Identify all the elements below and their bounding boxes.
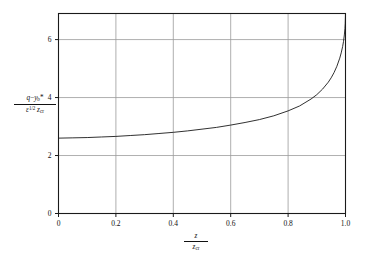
y-tick-label: 0 [38, 209, 52, 218]
x-tick-label: 0.8 [276, 219, 300, 228]
y-tick-label: 4 [38, 93, 52, 102]
x-tick-label: 1.0 [334, 219, 358, 228]
y-label-exponent: 1/2 [29, 106, 35, 111]
x-tick-label: 0.2 [104, 219, 128, 228]
x-axis-label: z zcr [178, 232, 214, 252]
y-tick-label: 6 [38, 35, 52, 44]
x-tick-label: 0 [47, 219, 71, 228]
y-tick-label: 2 [38, 151, 52, 160]
y-label-fraction-bar [14, 104, 56, 105]
x-label-z-sub: cr [195, 245, 199, 251]
x-label-z: z [195, 232, 198, 240]
y-axis-label-denominator: ε1/2 zcr [12, 106, 58, 115]
figure-container: q−yb* ε1/2 zcr z zcr 00.20.40.60.81.0024… [0, 0, 378, 262]
plot-frame [59, 14, 346, 214]
x-tick-label: 0.6 [219, 219, 243, 228]
x-tick-label: 0.4 [161, 219, 185, 228]
y-label-z-sub: cr [40, 108, 44, 114]
x-axis-label-denominator: zcr [178, 243, 214, 252]
x-axis-label-numerator: z [178, 232, 214, 240]
data-series-line [59, 14, 346, 139]
x-label-fraction-bar [184, 241, 208, 242]
